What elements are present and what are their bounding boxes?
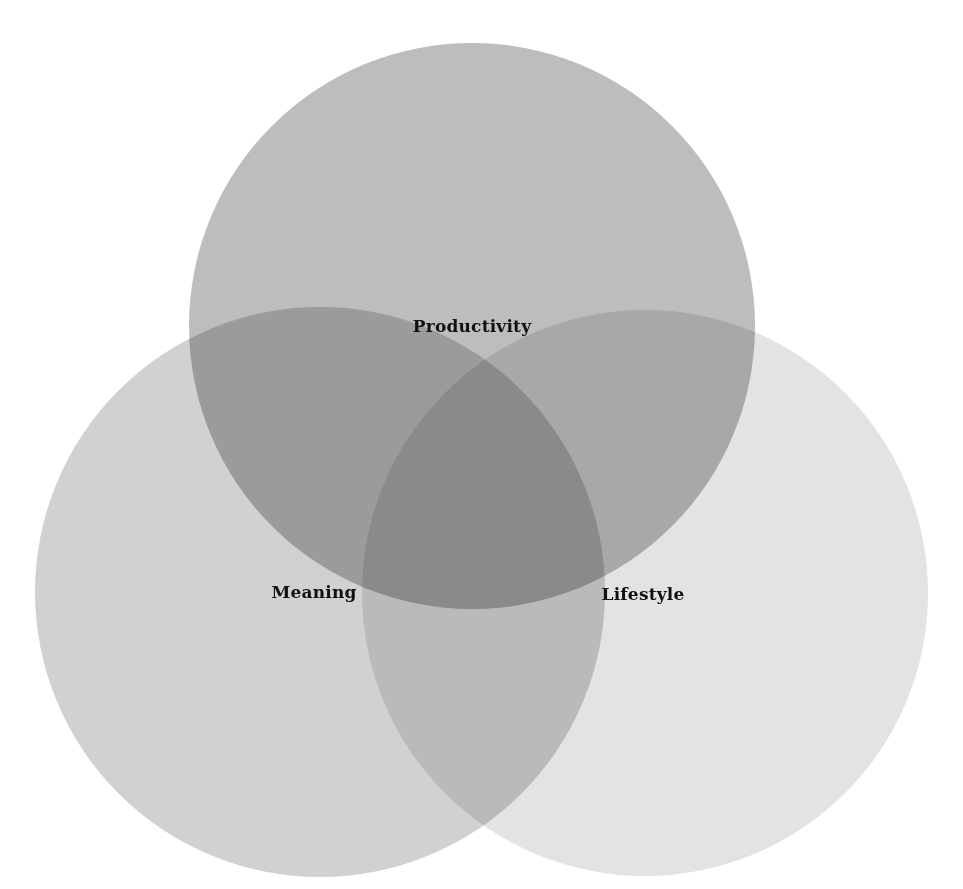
label-lifestyle: Lifestyle [602,584,685,604]
label-meaning: Meaning [271,582,356,602]
label-productivity: Productivity [413,316,531,336]
venn-diagram: Productivity Meaning Lifestyle [0,0,963,889]
